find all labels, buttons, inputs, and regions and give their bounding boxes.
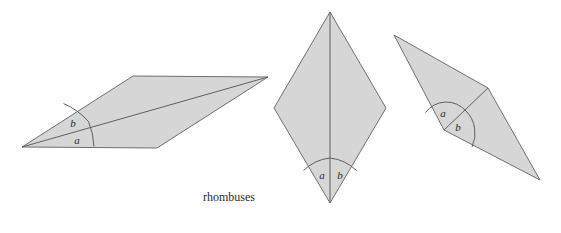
rhombus-left-label-a: a (74, 134, 80, 146)
rhombus-right-label-b: b (455, 121, 461, 133)
rhombus-left: a b (22, 76, 268, 148)
rhombus-left-label-b: b (70, 117, 76, 129)
figure-canvas: a b a b a b rhombuses (0, 0, 561, 233)
rhombus-middle-label-a: a (319, 169, 325, 181)
rhombus-right: a b (394, 35, 540, 180)
rhombus-middle-label-b: b (337, 169, 343, 181)
rhombus-middle: a b (274, 12, 386, 203)
figure-caption: rhombuses (203, 190, 255, 204)
rhombuses-figure: a b a b a b rhombuses (0, 0, 561, 233)
rhombus-right-label-a: a (440, 107, 446, 119)
